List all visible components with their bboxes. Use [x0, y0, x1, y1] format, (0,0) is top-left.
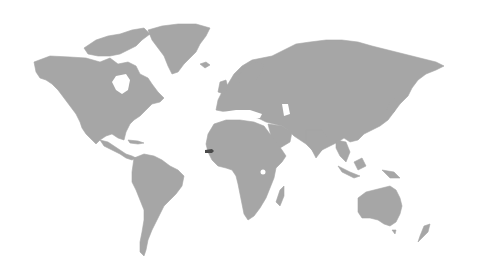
north-america — [34, 56, 164, 144]
australia — [358, 186, 402, 226]
new-zealand — [418, 224, 430, 242]
world-map-svg — [0, 0, 481, 274]
lake-victoria — [261, 170, 266, 175]
iceland — [200, 62, 210, 68]
arctic-archipelago — [84, 28, 150, 56]
india — [306, 130, 328, 158]
caribbean — [128, 140, 144, 144]
world-map — [0, 0, 481, 274]
tasmania — [392, 230, 396, 234]
south-america — [132, 154, 184, 256]
madagascar — [276, 186, 284, 206]
greenland — [148, 24, 210, 74]
indonesia — [338, 158, 400, 178]
southeast-asia — [336, 140, 350, 162]
